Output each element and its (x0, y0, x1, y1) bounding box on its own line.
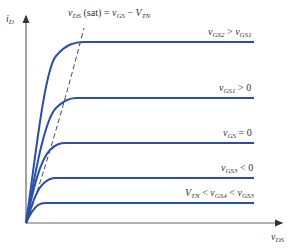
curve-label-vgs2: vGS2 > vGS1 (208, 27, 252, 39)
curve-vgs3 (26, 178, 254, 223)
x-axis-label: vDS (271, 232, 284, 244)
curve-label-vgs4: VTN < vGS4 < vGS3 (185, 188, 254, 200)
curve-label-vgs0: vGS = 0 (223, 128, 252, 140)
curve-vgs4 (26, 203, 254, 223)
y-axis-label: iD (6, 14, 14, 26)
saturation-label: vDS (sat) = vGS − VTN (68, 8, 150, 20)
curve-label-vgs1: vGS1 > 0 (219, 83, 251, 95)
curve-vgs0 (26, 143, 254, 223)
curve-label-vgs3: vGS3 < 0 (221, 163, 253, 175)
curve-vgs1 (26, 98, 254, 223)
